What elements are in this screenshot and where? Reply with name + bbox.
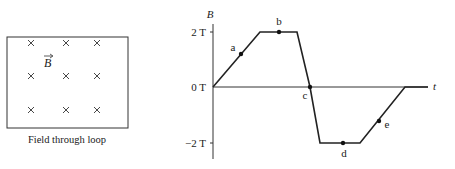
cross-icon	[94, 40, 100, 46]
loop-outline	[7, 37, 128, 128]
svg-text:c: c	[303, 89, 308, 101]
b-vs-t-graph: B t 2 T 0 T −2 T a b c d e	[185, 8, 437, 159]
cross-icon	[28, 73, 34, 79]
cross-icon	[63, 40, 69, 46]
figure: B Field through loop B t 2 T 0 T −2 T a …	[0, 0, 455, 169]
cross-icon	[63, 107, 69, 113]
field-vector-label: B	[44, 54, 53, 70]
svg-text:d: d	[341, 147, 347, 159]
cross-icon	[63, 73, 69, 79]
field-crosses	[28, 40, 100, 113]
loop-caption: Field through loop	[28, 134, 106, 145]
y-tick-label: 2 T	[191, 26, 206, 38]
point-a: a	[231, 41, 244, 56]
field-symbol: B	[44, 56, 52, 70]
x-axis-label: t	[433, 80, 437, 92]
svg-text:a: a	[231, 41, 236, 53]
cross-icon	[94, 107, 100, 113]
svg-text:b: b	[276, 15, 282, 27]
cross-icon	[28, 40, 34, 46]
loop-diagram: B Field through loop	[7, 37, 128, 145]
point-e: e	[377, 118, 390, 130]
cross-icon	[94, 73, 100, 79]
y-tick-label: 0 T	[191, 81, 206, 93]
y-tick-label: −2 T	[185, 137, 206, 149]
svg-text:e: e	[385, 118, 390, 130]
cross-icon	[28, 107, 34, 113]
y-axis-label: B	[207, 8, 214, 20]
